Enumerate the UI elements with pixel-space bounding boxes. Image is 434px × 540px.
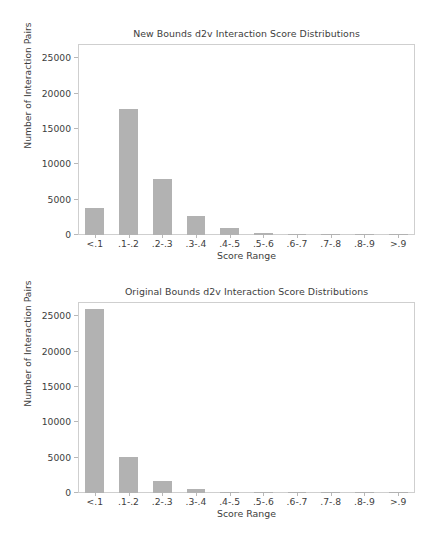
y-tick-label: 10000: [42, 416, 71, 428]
y-tick: 10000: [0, 158, 78, 170]
y-tick: 20000: [0, 346, 78, 358]
y-tick-label: 5000: [48, 452, 71, 464]
x-axis-label: Score Range: [78, 508, 415, 519]
x-tick-mark: [398, 235, 399, 238]
y-tick: 15000: [0, 123, 78, 135]
x-tick: >.9: [374, 235, 422, 251]
x-tick-mark: [129, 493, 130, 496]
bars-layer: [78, 302, 415, 493]
y-tick-mark: [74, 93, 78, 94]
bar: [85, 309, 104, 493]
bar: [153, 179, 172, 235]
y-tick: 15000: [0, 381, 78, 393]
y-tick-mark: [74, 128, 78, 129]
y-tick-label: 5000: [48, 194, 71, 206]
x-tick-mark: [129, 235, 130, 238]
x-tick-mark: [95, 235, 96, 238]
y-tick-mark: [74, 315, 78, 316]
x-tick-mark: [297, 493, 298, 496]
x-tick-mark: [263, 493, 264, 496]
y-tick-mark: [74, 351, 78, 352]
y-tick-label: 25000: [42, 52, 71, 64]
y-axis-label: Number of Interaction Pairs: [22, 6, 33, 166]
x-tick-mark: [230, 493, 231, 496]
x-tick-mark: [95, 493, 96, 496]
y-tick-label: 20000: [42, 88, 71, 100]
y-tick-label: 20000: [42, 346, 71, 358]
y-tick-mark: [74, 386, 78, 387]
bars-layer: [78, 44, 415, 235]
y-tick-mark: [74, 199, 78, 200]
y-tick: 5000: [0, 452, 78, 464]
figure-canvas: New Bounds d2v Interaction Score Distrib…: [0, 0, 434, 540]
x-tick-mark: [297, 235, 298, 238]
y-tick-label: 15000: [42, 123, 71, 135]
x-tick-mark: [263, 235, 264, 238]
bar: [153, 481, 172, 493]
chart-title: Original Bounds d2v Interaction Score Di…: [78, 286, 415, 297]
chart-title: New Bounds d2v Interaction Score Distrib…: [78, 28, 415, 39]
y-tick-label: 25000: [42, 310, 71, 322]
x-tick-mark: [196, 235, 197, 238]
y-tick-mark: [74, 421, 78, 422]
y-tick-label: 15000: [42, 381, 71, 393]
y-tick-mark: [74, 457, 78, 458]
y-tick: 5000: [0, 194, 78, 206]
y-tick-label: 10000: [42, 158, 71, 170]
subplot-new-bounds: New Bounds d2v Interaction Score Distrib…: [0, 14, 434, 272]
y-tick-mark: [74, 163, 78, 164]
x-tick-mark: [162, 493, 163, 496]
x-tick-mark: [398, 493, 399, 496]
y-tick: 0: [0, 229, 78, 241]
x-tick-mark: [196, 493, 197, 496]
x-tick-mark: [230, 235, 231, 238]
x-tick-mark: [331, 493, 332, 496]
bar: [85, 208, 104, 235]
x-axis-label: Score Range: [78, 250, 415, 261]
x-tick-mark: [331, 235, 332, 238]
bar: [220, 228, 239, 235]
bar: [187, 216, 206, 235]
x-tick: >.9: [374, 493, 422, 509]
x-tick-mark: [162, 235, 163, 238]
y-tick-mark: [74, 57, 78, 58]
y-axis-label: Number of Interaction Pairs: [22, 264, 33, 424]
y-tick: 0: [0, 487, 78, 499]
x-tick-mark: [364, 235, 365, 238]
y-tick: 25000: [0, 52, 78, 64]
y-tick: 20000: [0, 88, 78, 100]
y-tick: 25000: [0, 310, 78, 322]
x-tick-mark: [364, 493, 365, 496]
bar: [119, 109, 138, 235]
subplot-original-bounds: Original Bounds d2v Interaction Score Di…: [0, 272, 434, 530]
bar: [119, 457, 138, 493]
y-tick: 10000: [0, 416, 78, 428]
